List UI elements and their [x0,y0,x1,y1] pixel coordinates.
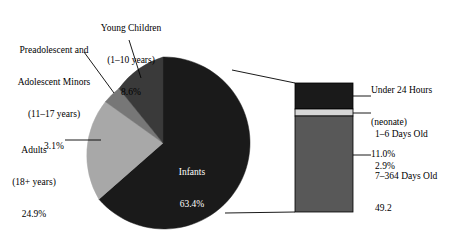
label-7-364-days-old-line1: 7–364 Days Old [375,171,455,182]
label-adults-value: 24.9% [3,209,65,220]
pie-chart-figure: Young Children (1–10 years) 8.6% Preadol… [0,0,456,247]
label-infants-value: 63.4% [164,199,220,210]
label-adults: Adults (18+ years) 24.9% [3,124,65,241]
label-adults-line2: (18+ years) [3,177,65,188]
explosion-connector-bottom [225,212,295,213]
bar-segment-7-364-days-old[interactable] [295,116,353,212]
label-under-24-hours-line1: Under 24 Hours [371,85,455,96]
bar-segment-under-24-hours[interactable] [295,83,353,109]
label-preadolescent-line3: (11–17 years) [2,109,106,120]
explosion-connector-top [232,70,295,83]
label-preadolescent-line1: Preadolescent and [2,45,106,56]
label-infants-line1: Infants [164,167,220,178]
label-infants: Infants 63.4% [164,145,220,231]
label-7-364-days-old: 7–364 Days Old 49.2 [375,150,455,235]
bar-segment-1-6-days-old[interactable] [295,109,353,116]
exploded-stacked-bar [295,83,353,212]
label-preadolescent-line2: Adolescent Minors [2,77,106,88]
label-adults-line1: Adults [3,145,65,156]
label-7-364-days-old-value: 49.2 [375,203,455,214]
label-1-6-days-old-line1: 1–6 Days Old [375,129,455,140]
